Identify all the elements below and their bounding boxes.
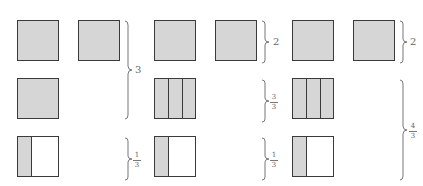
brace-icon [124,20,134,120]
shaded-third [18,137,32,176]
three-thirds-square [154,78,196,119]
divider-line [306,79,307,118]
brace-icon [399,79,409,181]
whole-square [17,20,59,61]
whole-square [17,78,59,119]
whole-square [154,20,196,61]
divider-line [320,79,321,118]
whole-square [292,20,334,61]
whole-square [215,20,257,61]
brace-icon [261,20,271,64]
denominator: 3 [135,161,139,169]
fraction-label: 3 3 [270,94,278,111]
three-thirds-square [292,78,334,119]
quantity-label: 2 [273,37,279,47]
shaded-third [155,137,169,176]
one-third-square [17,136,59,177]
denominator: 3 [411,132,415,140]
fraction-label: 1 3 [270,152,278,169]
brace-icon [399,20,409,64]
divider-line [168,79,169,118]
one-third-square [292,136,334,177]
fraction-label: 1 3 [133,152,141,169]
fraction-label: 4 3 [409,123,417,140]
quantity-label: 2 [410,37,416,47]
shaded-third [293,137,307,176]
numerator: 3 [272,93,276,101]
whole-square [78,20,120,61]
whole-square [353,20,395,61]
numerator: 1 [272,151,276,159]
denominator: 3 [272,161,276,169]
quantity-label: 3 [135,65,141,75]
numerator: 1 [135,151,139,159]
denominator: 3 [272,103,276,111]
numerator: 4 [411,122,415,130]
divider-line [182,79,183,118]
one-third-square [154,136,196,177]
